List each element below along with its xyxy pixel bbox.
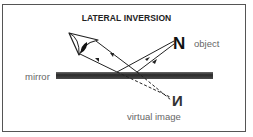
ray-arrows [95, 53, 157, 64]
mirror-label: mirror [25, 71, 50, 82]
object-letter: N [173, 35, 185, 52]
virtual-image-label: virtual image [127, 111, 181, 122]
object-label: object [194, 38, 219, 49]
mirror-surface [56, 72, 213, 79]
virtual-image-letter: N [172, 93, 183, 108]
eye-icon [69, 33, 98, 55]
light-rays [80, 41, 174, 72]
